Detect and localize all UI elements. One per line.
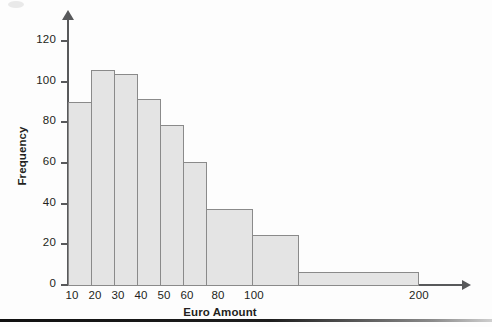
x-tick-label-50: 50 — [152, 289, 176, 301]
x-tick-label-40: 40 — [129, 289, 153, 301]
x-tick-label-10: 10 — [60, 289, 84, 301]
y-tick-label: 100 — [16, 74, 56, 86]
page-bottom-rule — [0, 319, 492, 322]
bar-20-30 — [114, 74, 138, 286]
x-tick-label-60: 60 — [175, 289, 199, 301]
y-axis-title: Frequency — [16, 101, 28, 211]
histogram-figure: 0 20 40 60 80 100 120 10 20 30 40 50 60 … — [0, 0, 492, 327]
y-tick-label: 120 — [16, 33, 56, 45]
bar-80-100 — [252, 235, 299, 286]
bar-0-10 — [68, 102, 92, 286]
x-tick-label-80: 80 — [206, 289, 230, 301]
bar-50-60 — [183, 162, 207, 286]
x-tick-label-200: 200 — [404, 289, 434, 301]
x-tick-label-100: 100 — [240, 289, 268, 301]
y-tick-label: 0 — [16, 277, 56, 289]
bar-100-200 — [298, 272, 419, 286]
x-tick-label-30: 30 — [106, 289, 130, 301]
y-axis-arrow-icon — [62, 10, 74, 20]
x-tick-label-20: 20 — [83, 289, 107, 301]
bar-60-80 — [206, 209, 253, 286]
x-axis-title: Euro Amount — [120, 306, 320, 318]
bar-30-40 — [137, 99, 161, 286]
bar-10-20 — [91, 70, 115, 286]
x-axis-arrow-icon — [462, 280, 471, 290]
y-tick-label: 20 — [16, 236, 56, 248]
bar-40-50 — [160, 125, 184, 286]
scan-artifact — [8, 1, 24, 8]
